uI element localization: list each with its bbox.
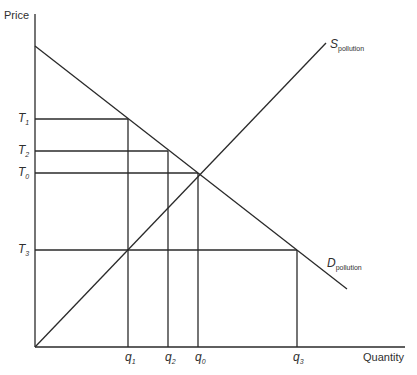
t0-label: T0 — [18, 165, 29, 180]
supply-curve — [35, 43, 326, 347]
x-axis-label: Quantity — [363, 351, 404, 363]
chart-canvas — [0, 0, 417, 375]
t3-label: T3 — [18, 242, 29, 257]
t2-label: T2 — [18, 143, 29, 158]
demand-curve — [35, 46, 347, 289]
supply-label-sub: pollution — [338, 45, 364, 52]
supply-label-main: S — [330, 37, 338, 51]
q3-label: q3 — [293, 350, 304, 365]
demand-label: Dpollution — [327, 256, 362, 271]
demand-label-sub: pollution — [336, 264, 362, 271]
supply-label: Spollution — [330, 37, 364, 52]
demand-label-main: D — [327, 256, 336, 270]
y-axis-label: Price — [4, 9, 29, 21]
q0-label: q0 — [195, 350, 206, 365]
t1-label: T1 — [18, 111, 29, 126]
q2-label: q2 — [165, 350, 176, 365]
q1-label: q1 — [125, 350, 136, 365]
